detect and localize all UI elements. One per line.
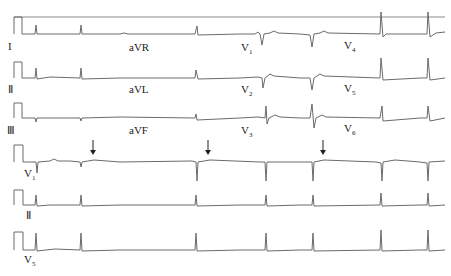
lead-label-avf: aVF	[129, 125, 148, 136]
lead-label-v6-sub: 6	[352, 129, 356, 137]
lead-label-v3: V3	[241, 125, 252, 139]
lead-label-v3-letter: V	[241, 124, 249, 136]
row-3-trace	[14, 103, 445, 128]
lead-label-avr: aVR	[129, 42, 149, 53]
rhythm-label-v1-sub: 1	[32, 174, 36, 182]
lead-label-v4-sub: 4	[352, 46, 356, 54]
rhythm-label-v5: V5	[24, 254, 35, 268]
lead-label-v6: V6	[344, 123, 355, 137]
lead-label-v1-letter: V	[241, 41, 249, 53]
lead-label-avl: aVL	[129, 84, 149, 95]
lead-label-iii: Ⅲ	[7, 125, 15, 136]
ecg-tracing	[0, 0, 451, 276]
rhythm-label-ii: Ⅱ	[26, 210, 31, 221]
lead-label-v1: V1	[241, 42, 252, 56]
rhythm-label-v5-letter: V	[24, 253, 32, 265]
lead-label-v3-sub: 3	[249, 131, 253, 139]
lead-label-ii: Ⅱ	[8, 84, 13, 95]
lead-label-v5: V5	[344, 83, 355, 97]
row-2-trace	[14, 58, 445, 90]
lead-label-v2-sub: 2	[249, 90, 253, 98]
rhythm-v1-trace	[14, 145, 445, 181]
rhythm-label-v1-letter: V	[24, 167, 32, 179]
lead-label-v4: V4	[344, 40, 355, 54]
arrow-1	[90, 140, 96, 155]
lead-label-v2: V2	[241, 84, 252, 98]
lead-label-v6-letter: V	[344, 122, 352, 134]
rhythm-label-v5-sub: 5	[32, 260, 36, 268]
lead-label-i: I	[8, 41, 12, 52]
lead-label-v4-letter: V	[344, 39, 352, 51]
lead-label-v2-letter: V	[241, 83, 249, 95]
rhythm-v5-trace	[14, 230, 445, 251]
rhythm-label-v1: V1	[24, 168, 35, 182]
rhythm-ii-trace	[14, 190, 445, 206]
lead-label-v5-letter: V	[344, 82, 352, 94]
lead-label-v1-sub: 1	[249, 48, 253, 56]
arrow-2	[205, 140, 211, 155]
lead-label-v5-sub: 5	[352, 89, 356, 97]
arrow-3	[320, 140, 326, 155]
